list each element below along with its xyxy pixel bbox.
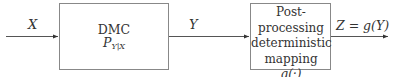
intermediate-signal-label: Y bbox=[189, 17, 198, 32]
postproc-line2: deterministic bbox=[251, 36, 331, 52]
dmc-title: DMC bbox=[60, 23, 168, 36]
dmc-expr-sub: Y|X bbox=[111, 42, 125, 51]
dmc-label: DMC PY|X bbox=[60, 23, 168, 53]
postproc-line4: g(·) bbox=[251, 67, 331, 77]
output-signal-label: Z = g(Y) bbox=[336, 18, 389, 33]
input-signal-label: X bbox=[28, 17, 37, 32]
postproc-line1: Post-processing bbox=[251, 5, 331, 36]
postproc-label: Post-processing deterministic mapping g(… bbox=[251, 5, 331, 77]
postproc-line3: mapping bbox=[251, 52, 331, 68]
dmc-expression: PY|X bbox=[60, 36, 168, 53]
